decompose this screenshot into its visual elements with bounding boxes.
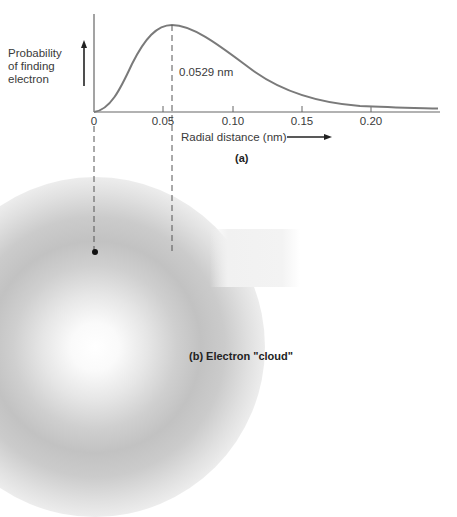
ylabel-line-3: electron <box>8 73 62 86</box>
ylabel-line-2: of finding <box>8 60 62 73</box>
tick-label-015: 0.15 <box>291 115 313 127</box>
ylabel-line-1: Probability <box>8 47 62 60</box>
y-axis-label: Probability of finding electron <box>8 47 62 86</box>
x-axis-label: Radial distance (nm) <box>181 131 286 143</box>
peak-annotation: 0.0529 nm <box>179 66 233 78</box>
tick-label-005: 0.05 <box>152 115 174 127</box>
probability-curve <box>94 25 438 112</box>
caption-a: (a) <box>235 152 248 164</box>
nucleus-dot <box>92 249 98 255</box>
tick-label-0: 0 <box>91 115 97 127</box>
caption-b: (b) Electron "cloud" <box>189 350 293 362</box>
tick-label-020: 0.20 <box>360 115 382 127</box>
tick-label-010: 0.10 <box>222 115 244 127</box>
